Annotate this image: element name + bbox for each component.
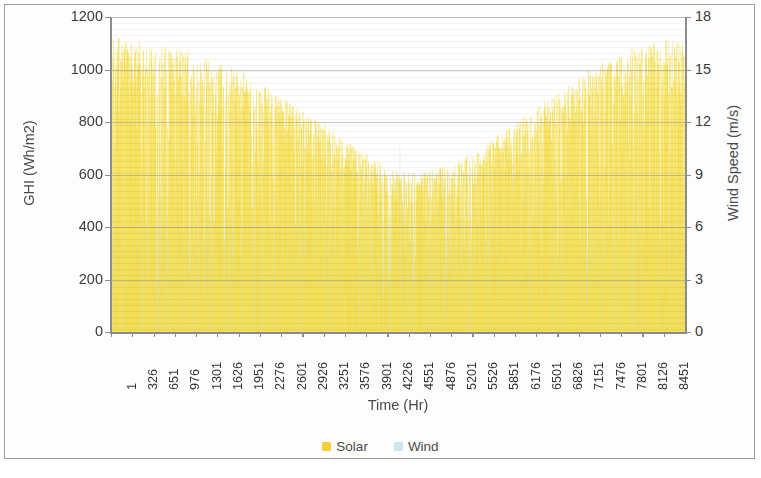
x-tick-label-22: 7151 <box>593 362 606 390</box>
y-axis-right-tick-labels: 0369121518 <box>695 5 729 345</box>
y-right-tick-6: 18 <box>695 9 711 24</box>
y-left-tick-mark-0 <box>105 332 110 333</box>
x-tick-mark-5 <box>217 333 218 337</box>
y-left-tick-1: 200 <box>79 272 103 287</box>
figure-frame: 020040060080010001200 0369121518 GHI (Wh… <box>4 4 755 459</box>
x-tick-label-10: 3251 <box>338 362 351 390</box>
x-tick-label-9: 2926 <box>317 362 330 390</box>
x-tick-label-5: 1626 <box>232 362 245 390</box>
plot-area <box>111 17 685 332</box>
x-tick-mark-1 <box>132 333 133 337</box>
legend-item-wind[interactable]: Wind <box>394 439 439 454</box>
x-tick-mark-14 <box>409 333 410 337</box>
y-left-tick-mark-5 <box>105 70 110 71</box>
legend-label-wind: Wind <box>408 439 439 454</box>
x-tick-label-1: 326 <box>147 369 160 390</box>
y-right-tick-mark-2 <box>686 227 691 228</box>
y-left-tick-0: 0 <box>95 324 103 339</box>
y-left-tick-5: 1000 <box>71 62 103 77</box>
x-tick-label-17: 5526 <box>487 362 500 390</box>
y-left-tick-mark-3 <box>105 175 110 176</box>
x-tick-mark-0 <box>111 333 112 337</box>
x-tick-mark-9 <box>302 333 303 337</box>
y-left-tick-4: 800 <box>79 114 103 129</box>
y-axis-left-tick-labels: 020040060080010001200 <box>41 5 103 345</box>
x-tick-mark-26 <box>664 333 665 337</box>
x-tick-mark-21 <box>557 333 558 337</box>
y-right-tick-2: 6 <box>695 219 703 234</box>
x-tick-mark-7 <box>260 333 261 337</box>
x-tick-mark-3 <box>175 333 176 337</box>
legend-label-solar: Solar <box>336 439 368 454</box>
chart-legend: SolarWind <box>5 439 756 454</box>
x-tick-label-4: 1301 <box>211 362 224 390</box>
x-tick-label-12: 3901 <box>381 362 394 390</box>
legend-item-solar[interactable]: Solar <box>322 439 368 454</box>
x-tick-label-16: 5201 <box>466 362 479 390</box>
x-tick-mark-8 <box>281 333 282 337</box>
x-tick-mark-25 <box>642 333 643 337</box>
x-axis-tick-labels: 1326651976130116261951227626012926325135… <box>111 338 685 394</box>
x-axis-title: Time (Hr) <box>111 397 685 413</box>
x-tick-label-11: 3576 <box>359 362 372 390</box>
y-right-tick-3: 9 <box>695 167 703 182</box>
y-axis-left-title: GHI (Wh/m2) <box>21 63 37 263</box>
x-tick-mark-15 <box>430 333 431 337</box>
x-tick-label-6: 1951 <box>253 362 266 390</box>
x-tick-mark-12 <box>366 333 367 337</box>
x-tick-mark-13 <box>387 333 388 337</box>
y-left-tick-mark-2 <box>105 227 110 228</box>
x-tick-mark-19 <box>515 333 516 337</box>
y-right-tick-mark-5 <box>686 70 691 71</box>
y-left-tick-mark-6 <box>105 17 110 18</box>
x-tick-mark-20 <box>536 333 537 337</box>
legend-swatch-solar-icon <box>322 442 331 451</box>
x-tick-label-3: 976 <box>189 369 202 390</box>
chart-plot-canvas <box>111 17 685 332</box>
legend-swatch-wind-icon <box>394 442 403 451</box>
x-tick-label-8: 2601 <box>296 362 309 390</box>
x-tick-label-15: 4876 <box>445 362 458 390</box>
x-tick-label-13: 4226 <box>402 362 415 390</box>
x-tick-label-7: 2276 <box>274 362 287 390</box>
x-tick-mark-2 <box>154 333 155 337</box>
y-right-tick-mark-1 <box>686 280 691 281</box>
x-tick-label-26: 8451 <box>678 362 691 390</box>
y-right-tick-1: 3 <box>695 272 703 287</box>
y-right-tick-mark-3 <box>686 175 691 176</box>
y-axis-right-title: Wind Speed (m/s) <box>725 63 741 263</box>
x-tick-label-2: 651 <box>168 369 181 390</box>
y-right-tick-mark-0 <box>686 332 691 333</box>
x-tick-label-24: 7801 <box>636 362 649 390</box>
y-right-tick-4: 12 <box>695 114 711 129</box>
y-right-tick-5: 15 <box>695 62 711 77</box>
x-tick-mark-17 <box>472 333 473 337</box>
x-tick-mark-23 <box>600 333 601 337</box>
x-tick-mark-10 <box>324 333 325 337</box>
x-tick-label-20: 6501 <box>551 362 564 390</box>
x-tick-mark-22 <box>579 333 580 337</box>
y-right-tick-0: 0 <box>695 324 703 339</box>
x-tick-label-25: 8126 <box>657 362 670 390</box>
x-tick-label-14: 4551 <box>423 362 436 390</box>
x-tick-label-21: 6826 <box>572 362 585 390</box>
x-tick-label-18: 5851 <box>508 362 521 390</box>
y-right-tick-mark-4 <box>686 122 691 123</box>
x-tick-mark-16 <box>451 333 452 337</box>
y-left-tick-2: 400 <box>79 219 103 234</box>
y-axis-left-line <box>110 17 112 333</box>
combined-solar-wind-chart: 020040060080010001200 0369121518 GHI (Wh… <box>5 5 754 458</box>
x-tick-label-0: 1 <box>126 383 139 390</box>
y-left-tick-3: 600 <box>79 167 103 182</box>
x-tick-mark-6 <box>239 333 240 337</box>
x-tick-label-19: 6176 <box>530 362 543 390</box>
x-tick-label-23: 7476 <box>615 362 628 390</box>
x-tick-mark-24 <box>621 333 622 337</box>
y-left-tick-mark-1 <box>105 280 110 281</box>
y-right-tick-mark-6 <box>686 17 691 18</box>
y-left-tick-6: 1200 <box>71 9 103 24</box>
x-tick-mark-18 <box>494 333 495 337</box>
y-left-tick-mark-4 <box>105 122 110 123</box>
x-tick-mark-4 <box>196 333 197 337</box>
x-tick-mark-11 <box>345 333 346 337</box>
